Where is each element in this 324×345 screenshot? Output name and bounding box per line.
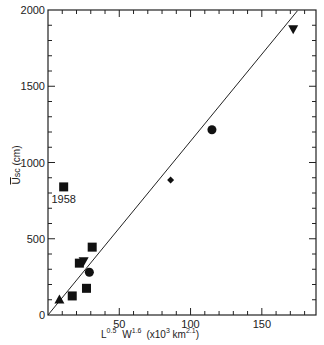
fit-line	[48, 11, 297, 315]
y-tick-label: 1000	[21, 157, 45, 169]
data-points	[54, 25, 298, 303]
y-tick-label: 1500	[21, 80, 45, 92]
annotation-label: 1958	[51, 193, 75, 205]
y-tick-label: 500	[27, 233, 45, 245]
circle-marker	[85, 268, 94, 277]
triangle-up-marker	[54, 294, 64, 303]
chart: 501001500500100015002000 1958 L0.5W1.6(x…	[0, 0, 324, 345]
annotations: 1958	[51, 193, 75, 205]
tick-labels: 501001500500100015002000	[21, 4, 271, 330]
triangle-down-marker	[288, 25, 298, 34]
x-axis-label: L0.5W1.6(x103 km2.1)	[101, 327, 199, 340]
y-axis-label: Usc (cm)	[11, 145, 22, 184]
square-marker	[88, 243, 97, 252]
x-tick-label: 150	[253, 318, 271, 330]
square-marker	[68, 291, 77, 300]
y-tick-label: 2000	[21, 4, 45, 16]
circle-marker	[207, 125, 216, 134]
y-tick-label: 0	[39, 309, 45, 321]
diamond-marker	[167, 177, 174, 184]
square-marker	[82, 284, 91, 293]
square-marker	[59, 182, 68, 191]
